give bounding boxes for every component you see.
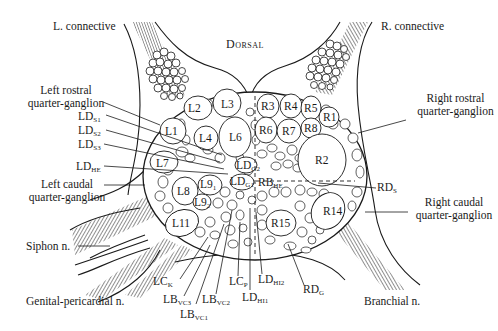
cell-label-R5: R5 <box>304 102 317 115</box>
genital-pericardial-nerve-label: Genital-pericardial n. <box>26 295 124 308</box>
left-caudal-line2: quarter-ganglion <box>28 191 106 204</box>
right-caudal-line2: quarter-ganglion <box>410 209 498 222</box>
ldhi1-label: LDHI1 <box>242 291 268 308</box>
cell-label-L8: L8 <box>177 185 190 198</box>
cell-label-R2: R2 <box>315 154 328 167</box>
cell-label-L11: L11 <box>172 217 190 230</box>
ldhi2-label: LDHI2 <box>258 273 284 290</box>
ganglion-diagram: L. connective R. connective Dorsal Left … <box>0 0 498 331</box>
lbvc1-label: LBVC1 <box>180 308 208 325</box>
left-rostral-line1: Left rostral <box>26 84 106 97</box>
cell-label-R6: R6 <box>259 124 272 137</box>
lds3-label: LDS3 <box>78 138 101 155</box>
lck-label: LCK <box>153 275 173 292</box>
ldhe-label: LDHE <box>76 160 101 177</box>
cell-label-R14: R14 <box>323 205 342 218</box>
cell-label-LDG2: LDG2 <box>236 159 260 176</box>
cell-label-R3: R3 <box>261 100 274 113</box>
cell-label-L6: L6 <box>229 131 242 144</box>
cell-label-L7: L7 <box>156 157 169 170</box>
right-rostral-line2: quarter-ganglion <box>413 105 498 118</box>
right-connective-label: R. connective <box>381 20 444 33</box>
cell-label-RBHE: RBHE <box>258 176 283 193</box>
left-rostral-label: Left rostral quarter-ganglion <box>26 84 106 110</box>
right-rostral-line1: Right rostral <box>413 92 498 105</box>
branchial-nerve-label: Branchial n. <box>364 295 420 308</box>
lcp-label: LCP <box>229 275 248 292</box>
left-rostral-line2: quarter-ganglion <box>26 97 106 110</box>
lbvc2-label: LBVC2 <box>202 293 230 310</box>
rdg-label: RDG <box>303 283 324 300</box>
cell-label-L4: L4 <box>199 132 212 145</box>
cell-label-L3: L3 <box>221 98 234 111</box>
cell-label-LDG1: LDG1 <box>230 175 254 192</box>
siphon-nerve-label: Siphon n. <box>26 240 70 253</box>
cell-label-R7: R7 <box>282 125 295 138</box>
right-rostral-label: Right rostral quarter-ganglion <box>413 92 498 118</box>
left-caudal-label: Left caudal quarter-ganglion <box>28 178 106 204</box>
left-connective-label: L. connective <box>53 20 116 33</box>
cell-label-R15: R15 <box>271 217 290 230</box>
cell-label-L2: L2 <box>188 102 201 115</box>
right-caudal-line1: Right caudal <box>410 196 498 209</box>
left-caudal-line1: Left caudal <box>28 178 106 191</box>
cell-label-L9-1: L91 <box>200 178 216 195</box>
dorsal-orientation-label: Dorsal <box>226 38 264 51</box>
right-caudal-label: Right caudal quarter-ganglion <box>410 196 498 222</box>
cell-label-R8: R8 <box>304 122 317 135</box>
cell-label-R1: R1 <box>323 111 336 124</box>
rds-label: RDS <box>377 181 397 198</box>
cell-label-R4: R4 <box>284 100 297 113</box>
cell-label-L1: L1 <box>165 125 178 138</box>
cell-label-L9-2: L92 <box>194 196 210 213</box>
